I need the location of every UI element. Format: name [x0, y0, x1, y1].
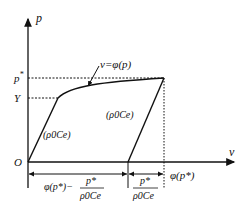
residual-fraction-numerator: p* [85, 175, 96, 186]
x-axis-label: v [229, 145, 235, 159]
elastic-fraction-denominator: ρ0Ce [132, 190, 154, 201]
y-axis-label: p [35, 11, 42, 25]
phi-p-star-label: φ(p*) [170, 169, 195, 182]
curve-label: v=φ(p) [100, 58, 132, 71]
curve-pointer-arrow [88, 66, 99, 86]
loading-slope-label: (ρ0Ce) [43, 129, 71, 141]
elastic-unloading-line [128, 78, 164, 162]
yield-label: Y [14, 92, 22, 104]
unloading-slope-label: (ρ0Ce) [106, 109, 134, 121]
diagram-canvas: p v O p* Y v=φ(p) (ρ0Ce) (ρ0Ce) φ(p*) φ(… [0, 0, 246, 218]
curve-v-phi-p [58, 78, 164, 98]
origin-label: O [14, 156, 22, 168]
residual-fraction-denominator: ρ0Ce [79, 190, 101, 201]
p-star-label: p* [13, 70, 24, 84]
residual-prefix-label: φ(p*)− [44, 181, 73, 193]
elastic-fraction-numerator: p* [139, 175, 150, 186]
